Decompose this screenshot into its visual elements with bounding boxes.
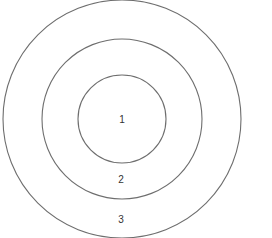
ring-label-3: 3 bbox=[118, 214, 124, 225]
concentric-circles-diagram: 1 2 3 bbox=[0, 0, 272, 238]
ring-label-2: 2 bbox=[118, 174, 124, 185]
ring-label-1: 1 bbox=[119, 114, 125, 125]
